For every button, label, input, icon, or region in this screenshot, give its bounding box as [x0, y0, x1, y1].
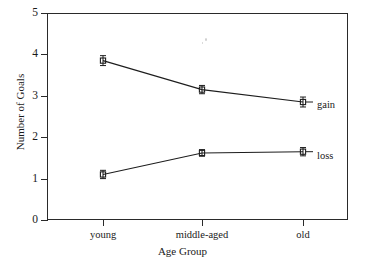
y-tick-label-0: 0 — [12, 214, 38, 226]
x-tick-middle-aged — [202, 220, 203, 226]
x-tick-old — [303, 220, 304, 226]
x-tick-label-old: old — [296, 229, 309, 241]
scan-speck — [202, 42, 203, 44]
x-axis-title: Age Group — [0, 245, 365, 257]
x-tick-label-young: young — [90, 229, 116, 241]
y-tick-label-5: 5 — [12, 7, 38, 19]
y-tick-1 — [41, 179, 48, 180]
series-label-gain: gain — [317, 99, 335, 110]
y-tick-3 — [41, 96, 48, 97]
line-chart-figure: 5 4 3 2 1 0 young middle-aged old Age Gr… — [0, 0, 365, 274]
y-tick-0 — [41, 220, 48, 221]
y-tick-4 — [41, 54, 48, 55]
x-tick-young — [103, 220, 104, 226]
y-axis-title: Number of Goals — [14, 47, 26, 177]
y-tick-5 — [41, 13, 48, 14]
series-label-loss: loss — [317, 150, 333, 161]
plot-frame — [47, 13, 348, 220]
x-tick-label-middle-aged: middle-aged — [176, 229, 228, 241]
y-tick-2 — [41, 137, 48, 138]
scan-speck — [205, 38, 207, 41]
